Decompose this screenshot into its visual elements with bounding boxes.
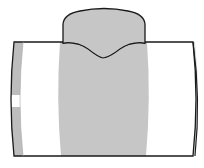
branch-outlet: [63, 9, 145, 45]
pipe-tee-diagram: [0, 0, 204, 168]
